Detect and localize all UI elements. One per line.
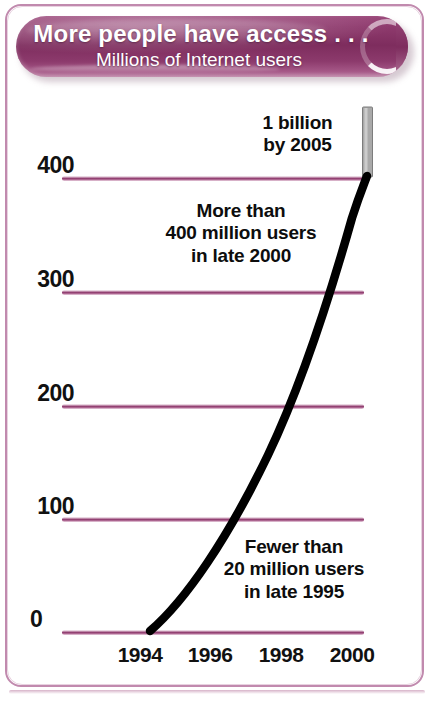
gridline-200 [62,404,364,409]
y-axis-label-400: 400 [12,152,74,179]
frame-drop-shadow [9,690,425,694]
banner-subtitle-text: Millions of Internet users [16,49,382,71]
y-axis-label-100: 100 [12,493,74,520]
annotation-1-billion-by-2005: 1 billion by 2005 [235,112,360,157]
projection-bar-gloss [365,108,368,176]
x-axis-label-1996: 1996 [170,643,250,667]
annotation-middle-line1: More than [142,200,340,222]
annotation-bottom-line1: Fewer than [196,536,392,558]
y-axis-label-200: 200 [12,380,74,407]
annotation-middle-line2: 400 million users [142,222,340,244]
title-banner: More people have access . . . Millions o… [16,16,414,82]
annotation-top-line1: 1 billion [235,112,360,134]
x-axis-label-1994: 1994 [100,643,180,667]
gridline-300 [62,290,364,295]
banner-title-text: More people have access . . . [16,20,386,48]
annotation-bottom-line2: 20 million users [196,558,392,580]
x-axis-label-1998: 1998 [241,643,321,667]
gridline-100 [62,517,364,522]
y-axis-label-0: 0 [12,606,92,633]
projection-bar-to-2005 [363,107,373,177]
annotation-middle-line3: in late 2000 [142,245,340,267]
gridline-0-baseline [62,630,364,635]
annotation-bottom-line3: in late 1995 [196,581,392,603]
annotation-400-million-late-2000: More than 400 million users in late 2000 [142,200,340,267]
infographic-root: More people have access . . . Millions o… [0,0,433,703]
banner-arc-mask [396,16,408,77]
y-axis-label-300: 300 [12,266,74,293]
x-axis-label-2000: 2000 [312,643,392,667]
gridline-400 [62,176,364,181]
annotation-20-million-late-1995: Fewer than 20 million users in late 1995 [196,536,392,603]
annotation-top-line2: by 2005 [235,134,360,156]
banner-pill: More people have access . . . Millions o… [16,16,408,77]
